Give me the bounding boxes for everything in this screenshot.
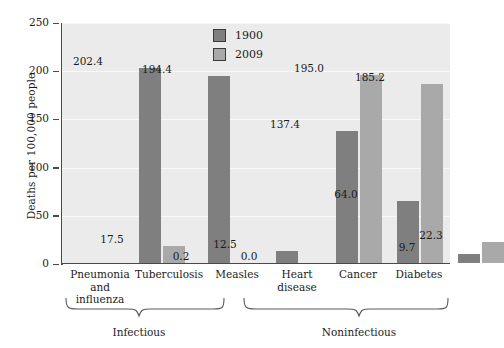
bar-value-label: 22.3	[412, 229, 450, 241]
bar-value-label: 17.5	[93, 233, 131, 245]
bar-value-label: 185.2	[351, 71, 389, 83]
bar-value-label: 194.4	[138, 63, 176, 75]
gridline	[62, 168, 450, 169]
y-tick-mark	[53, 71, 59, 73]
gridline	[62, 119, 450, 120]
bar-value-label: 137.4	[266, 118, 304, 130]
legend-swatch-2009-icon	[213, 48, 226, 61]
bar	[360, 75, 382, 263]
legend-swatch-1900-icon	[213, 29, 226, 42]
bar-value-label: 9.7	[388, 241, 426, 253]
bar	[482, 242, 504, 263]
bar-value-label: 64.0	[327, 188, 365, 200]
y-tick-label: 0	[3, 257, 49, 269]
brace-infectious	[66, 298, 224, 316]
brace-label: Infectious	[79, 326, 199, 338]
bar	[458, 254, 480, 263]
y-tick-mark	[53, 167, 59, 169]
bar-value-label: 0.2	[162, 250, 200, 262]
bar-value-label: 12.5	[206, 238, 244, 250]
y-tick-label: 150	[3, 112, 49, 124]
bar	[208, 76, 230, 263]
y-tick-label: 250	[3, 16, 49, 28]
bar-value-label: 195.0	[290, 62, 328, 74]
y-tick-mark	[53, 264, 59, 266]
bar	[139, 68, 161, 263]
category-label-line: and	[55, 281, 145, 294]
category-label-line: Diabetes	[374, 268, 464, 281]
chart-legend: 1900 2009	[213, 26, 263, 64]
y-tick-mark	[53, 23, 59, 25]
bar	[276, 251, 298, 263]
y-tick-mark	[53, 119, 59, 121]
y-tick-mark	[53, 215, 59, 217]
bar-value-label: 202.4	[69, 55, 107, 67]
y-tick-label: 200	[3, 64, 49, 76]
legend-item-2009[interactable]: 2009	[213, 45, 263, 64]
legend-label-1900: 1900	[235, 29, 263, 42]
gridline	[62, 71, 450, 72]
legend-label-2009: 2009	[235, 48, 263, 61]
y-tick-label: 50	[3, 209, 49, 221]
brace-label: Noninfectious	[299, 326, 419, 338]
category-label-line: disease	[252, 281, 342, 294]
y-tick-label: 100	[3, 161, 49, 173]
category-label: Diabetes	[374, 268, 464, 281]
bar-value-label: 0.0	[230, 250, 268, 262]
gridline	[62, 216, 450, 217]
gridline	[62, 23, 450, 24]
brace-noninfectious	[244, 298, 448, 316]
legend-item-1900[interactable]: 1900	[213, 26, 263, 45]
group-braces	[0, 296, 469, 326]
